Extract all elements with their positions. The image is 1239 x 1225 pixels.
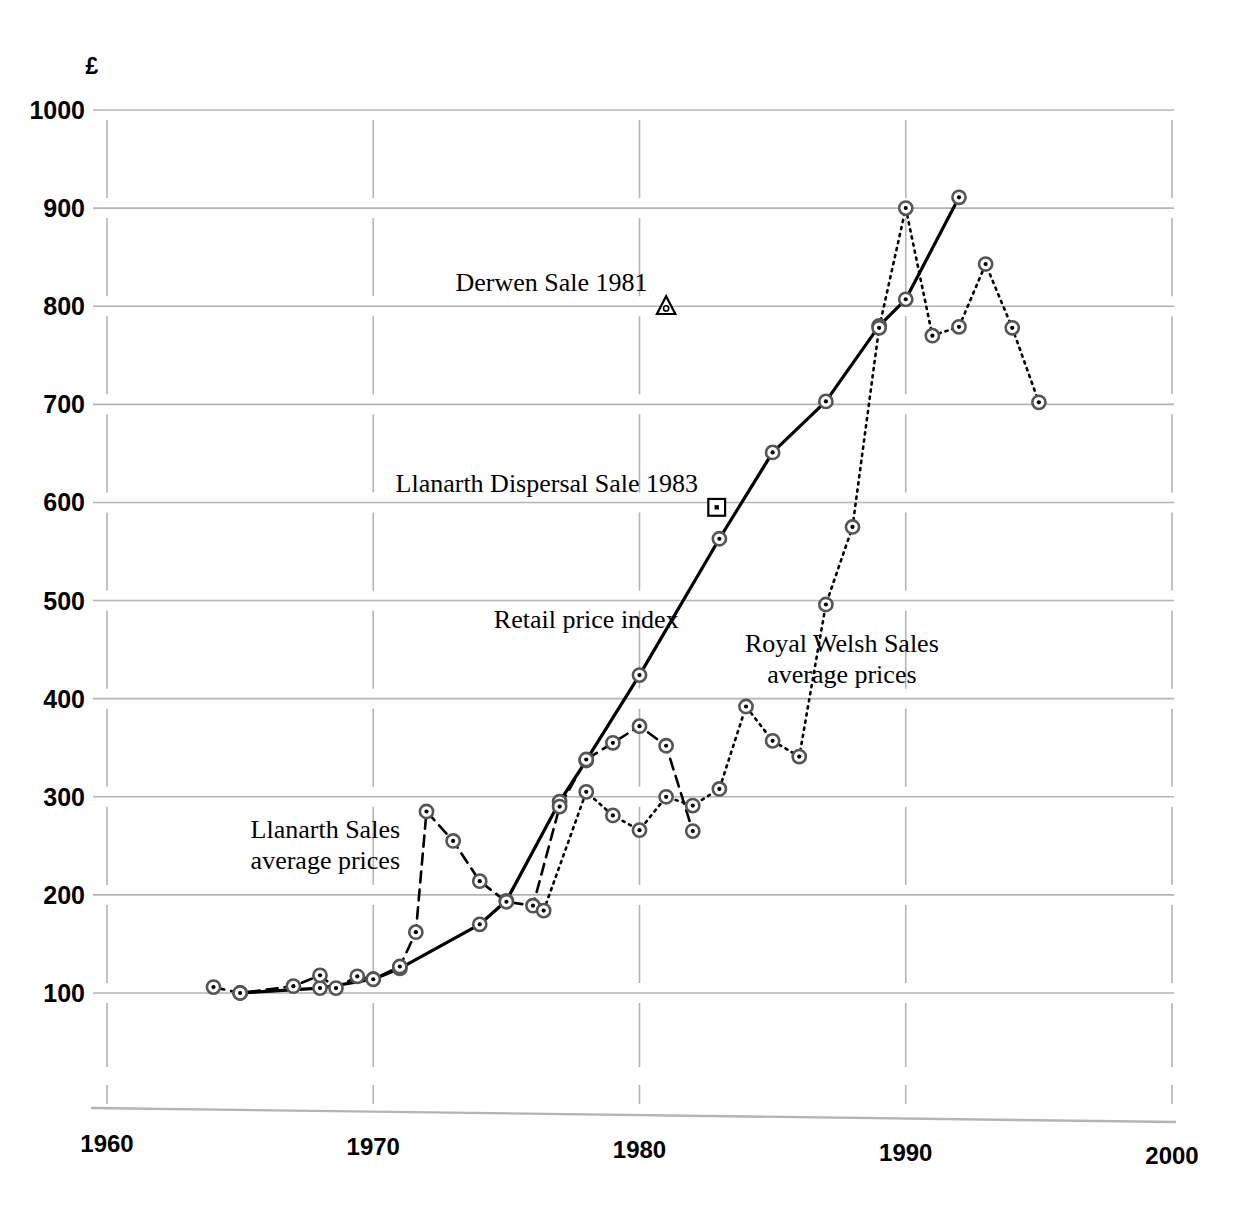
x-axis-tick-label: 1990 — [879, 1139, 932, 1166]
data-point-marker[interactable] — [846, 520, 859, 533]
data-point-marker[interactable] — [500, 895, 513, 908]
axis-lines-group — [91, 1108, 1176, 1122]
data-markers-group — [207, 191, 1046, 1000]
annotation-marker[interactable] — [657, 296, 675, 314]
x-axis-line — [91, 1108, 1176, 1122]
data-point-marker[interactable] — [819, 395, 832, 408]
data-point-marker[interactable] — [793, 750, 806, 763]
y-axis-tick-label: 700 — [43, 390, 85, 418]
data-point-marker[interactable] — [952, 191, 965, 204]
data-point-marker[interactable] — [207, 981, 220, 994]
chart-container: 1002003004005006007008009001000 19601970… — [0, 0, 1239, 1225]
data-point-marker[interactable] — [393, 960, 406, 973]
x-axis-tick-label: 1970 — [347, 1133, 400, 1160]
data-point-marker[interactable] — [739, 700, 752, 713]
x-axis-tick-label: 2000 — [1145, 1142, 1198, 1169]
series-label: Llanarth Sales — [251, 815, 400, 844]
x-axis-tick-label: 1960 — [80, 1130, 133, 1157]
series-label: average prices — [251, 846, 400, 875]
data-point-marker[interactable] — [287, 980, 300, 993]
y-axis-tick-label: 500 — [43, 587, 85, 615]
y-axis-tick-label: 800 — [43, 292, 85, 320]
data-point-marker[interactable] — [409, 926, 422, 939]
data-point-marker[interactable] — [713, 532, 726, 545]
data-point-marker[interactable] — [420, 805, 433, 818]
data-point-marker[interactable] — [633, 669, 646, 682]
data-point-marker[interactable] — [952, 320, 965, 333]
data-point-marker[interactable] — [660, 739, 673, 752]
annotation-label: Llanarth Dispersal Sale 1983 — [396, 469, 699, 498]
data-point-marker[interactable] — [313, 969, 326, 982]
data-point-marker[interactable] — [926, 329, 939, 342]
data-point-marker[interactable] — [537, 904, 550, 917]
data-point-marker[interactable] — [329, 981, 342, 994]
data-point-marker[interactable] — [367, 973, 380, 986]
data-point-marker[interactable] — [660, 790, 673, 803]
data-point-marker[interactable] — [580, 785, 593, 798]
data-point-marker[interactable] — [713, 782, 726, 795]
x-axis-tick-label: 1980 — [613, 1136, 666, 1163]
data-point-marker[interactable] — [606, 736, 619, 749]
y-axis-tick-label: 600 — [43, 488, 85, 516]
data-point-marker[interactable] — [447, 834, 460, 847]
data-point-marker[interactable] — [633, 824, 646, 837]
data-point-marker[interactable] — [686, 825, 699, 838]
y-axis-title-group: £ — [86, 53, 99, 79]
data-point-marker[interactable] — [606, 809, 619, 822]
data-point-marker[interactable] — [473, 918, 486, 931]
data-point-marker[interactable] — [1032, 396, 1045, 409]
data-point-marker[interactable] — [899, 293, 912, 306]
data-point-marker[interactable] — [580, 753, 593, 766]
data-point-marker[interactable] — [979, 257, 992, 270]
data-point-marker[interactable] — [766, 446, 779, 459]
data-point-marker[interactable] — [766, 734, 779, 747]
data-point-marker[interactable] — [553, 800, 566, 813]
data-point-marker[interactable] — [234, 986, 247, 999]
y-axis-tick-label: 100 — [43, 979, 85, 1007]
series-labels-group: Retail price indexLlanarth Salesaverage … — [251, 605, 939, 875]
y-axis-tick-label: 300 — [43, 783, 85, 811]
y-axis-tick-label: 900 — [43, 194, 85, 222]
data-point-marker[interactable] — [899, 202, 912, 215]
data-point-marker[interactable] — [819, 598, 832, 611]
data-point-marker[interactable] — [633, 720, 646, 733]
annotations-group: Derwen Sale 1981Llanarth Dispersal Sale … — [396, 268, 726, 516]
y-axis-tick-label: 400 — [43, 685, 85, 713]
y-axis-tick-label: 1000 — [29, 96, 85, 124]
series-label: average prices — [767, 660, 916, 689]
series-label: Royal Welsh Sales — [745, 629, 939, 658]
data-point-marker[interactable] — [873, 321, 886, 334]
data-point-marker[interactable] — [473, 875, 486, 888]
data-point-marker[interactable] — [686, 799, 699, 812]
series-line-3 — [544, 208, 1039, 910]
x-tick-labels: 19601970198019902000 — [80, 1130, 1198, 1169]
data-point-marker[interactable] — [1006, 321, 1019, 334]
data-point-marker[interactable] — [313, 981, 326, 994]
y-tick-labels: 1002003004005006007008009001000 — [29, 96, 85, 1007]
annotation-label: Derwen Sale 1981 — [455, 268, 647, 297]
series-label: Retail price index — [494, 605, 679, 634]
y-axis-tick-label: 200 — [43, 881, 85, 909]
data-point-marker[interactable] — [351, 970, 364, 983]
y-axis-title: £ — [86, 53, 99, 79]
annotation-marker[interactable] — [708, 499, 725, 516]
price-trend-line-chart: 1002003004005006007008009001000 19601970… — [0, 0, 1239, 1225]
